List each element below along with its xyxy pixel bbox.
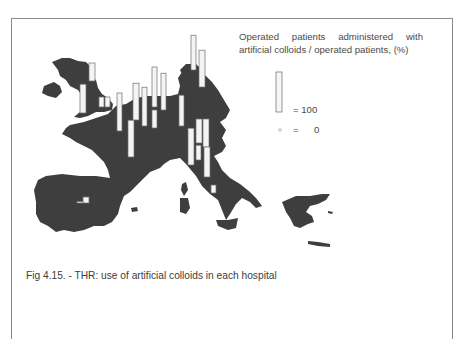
hospital-bar-italy-central	[204, 147, 210, 177]
hospital-bar-germany-north-2	[161, 73, 166, 110]
hospital-bar-uk-north	[89, 63, 95, 81]
land-sardinia	[180, 198, 190, 214]
hospital-bar-germany-west	[142, 87, 147, 126]
hospital-bar-belgium	[117, 93, 122, 131]
hospital-bar-uk-west	[80, 84, 86, 113]
legend-title-line2: artificial colloids / operated patients,…	[239, 44, 423, 57]
legend-zero-eq: =	[293, 124, 299, 135]
land-ireland	[42, 82, 62, 98]
legend-full-label: = 100	[293, 104, 317, 115]
land-crete	[308, 241, 330, 247]
hospital-bar-italy-north-4	[196, 145, 201, 160]
hospital-bar-italy-north-1	[188, 128, 194, 165]
land-balearic	[131, 207, 138, 212]
hospital-bar-germany-central	[152, 110, 157, 128]
legend-dot-zero	[278, 128, 281, 131]
land-corsica	[181, 182, 188, 196]
land-continent	[34, 68, 262, 232]
hospital-bar-france-north	[133, 83, 139, 120]
hospital-bar-germany-north-1	[152, 67, 157, 107]
hospital-bar-uk-south-2	[105, 97, 110, 107]
hospital-bar-france-central	[128, 120, 134, 157]
landmass	[34, 58, 333, 247]
hospital-bar-spain-2	[77, 202, 83, 204]
hospital-bar-scandinavia-2	[199, 50, 205, 87]
legend-title-line1: Operated patients administered with	[239, 31, 423, 44]
hospital-bar-scandinavia-1	[191, 35, 196, 70]
legend-zero-value: 0	[314, 124, 319, 135]
land-sicily	[216, 218, 238, 230]
legend-title: Operated patients administered with arti…	[239, 31, 423, 56]
hospital-bar-germany-east	[179, 95, 184, 126]
hospital-bar-uk-south-1	[99, 97, 104, 107]
hospital-bar-spain-1	[83, 197, 89, 203]
hospital-bar-italy-north-3	[203, 119, 209, 147]
legend-bar-full	[276, 72, 282, 112]
land-greece	[282, 194, 330, 228]
hospital-bar-italy-north-2	[196, 119, 202, 143]
hospital-bar-italy-south	[211, 185, 216, 193]
figure-caption: Fig 4.15. - THR: use of artificial collo…	[26, 270, 277, 281]
land-island	[328, 211, 333, 214]
